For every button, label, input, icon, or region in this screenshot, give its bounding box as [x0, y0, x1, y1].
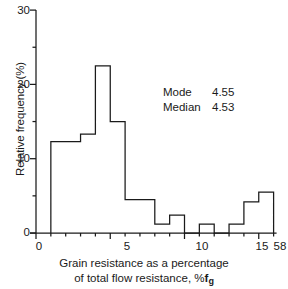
y-tick-label-0: 0 — [6, 226, 30, 238]
histogram-bar — [170, 215, 185, 233]
y-axis-title: Relative frequency (%) — [14, 29, 26, 209]
histogram-bar — [155, 224, 170, 233]
histogram-chart: Relative frequency (%) 30 20 10 0 0 5 10… — [0, 0, 288, 289]
x-tick-label-10: 10 — [187, 240, 217, 252]
x-axis-title-subscript: g — [208, 276, 214, 286]
histogram-bar — [244, 202, 259, 233]
stat-label-median: Median — [163, 100, 212, 115]
x-axis-title-line2: of total flow resistance, %fg — [14, 271, 274, 289]
histogram-bar — [125, 200, 155, 233]
stat-label-mode: Mode — [163, 85, 212, 100]
histogram-bar — [199, 224, 214, 233]
stat-value-median: 4.53 — [212, 100, 246, 115]
x-axis-title-line1: Grain resistance as a percentage — [14, 256, 274, 271]
histogram-bar — [81, 134, 96, 233]
stat-row-mode: Mode 4.55 — [163, 85, 246, 100]
y-tick-label-10: 10 — [6, 152, 30, 164]
histogram-bar — [110, 122, 125, 233]
x-tick-label-5: 5 — [112, 240, 142, 252]
stat-row-median: Median 4.53 — [163, 100, 246, 115]
x-axis-title: Grain resistance as a percentage of tota… — [14, 256, 274, 289]
stats-annotation: Mode 4.55 Median 4.53 — [163, 85, 246, 115]
y-tick-label-30: 30 — [6, 4, 30, 16]
stat-value-mode: 4.55 — [212, 85, 246, 100]
x-tick-label-58: 58 — [265, 240, 288, 252]
x-tick-label-0: 0 — [24, 240, 54, 252]
y-tick-label-20: 20 — [6, 78, 30, 90]
histogram-bar — [229, 224, 244, 233]
histogram-bar — [259, 192, 274, 233]
x-axis-title-line2-prefix: of total flow resistance, % — [74, 272, 204, 284]
histogram-bar — [95, 66, 110, 233]
histogram-bar — [51, 142, 81, 233]
